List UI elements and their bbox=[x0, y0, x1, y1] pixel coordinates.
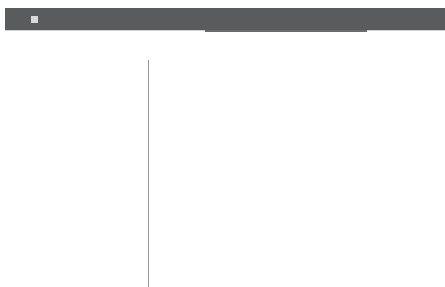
y-axis-line bbox=[148, 60, 149, 287]
median-line bbox=[205, 30, 367, 32]
boxplot-figure bbox=[0, 30, 445, 287]
figure-caption-bar bbox=[5, 8, 445, 30]
square-bullet-icon bbox=[31, 16, 38, 23]
